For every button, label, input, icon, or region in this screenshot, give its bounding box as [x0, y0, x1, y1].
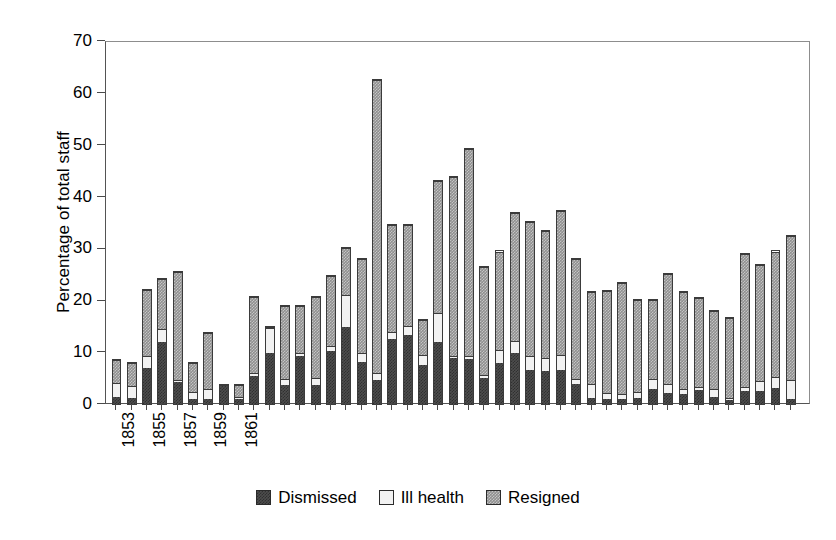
bar — [525, 221, 535, 405]
y-axis-tick — [97, 40, 105, 41]
bar-segment-resigned — [787, 236, 795, 381]
bar — [341, 247, 351, 405]
bar-segment-ill_health — [342, 295, 350, 327]
bar-segment-ill_health — [204, 389, 212, 399]
y-axis-tick — [97, 248, 105, 249]
bar-segment-ill_health — [526, 356, 534, 370]
bar — [142, 289, 152, 405]
bar-segment-resigned — [603, 291, 611, 393]
bar-segment-ill_health — [434, 313, 442, 343]
bar — [755, 264, 765, 405]
bar-segment-resigned — [204, 333, 212, 389]
bar — [403, 224, 413, 405]
bar-segment-dismissed — [480, 378, 488, 404]
bar — [372, 79, 382, 405]
bar-segment-resigned — [588, 292, 596, 384]
legend-swatch-icon — [379, 490, 394, 505]
bar — [188, 362, 198, 405]
bar-segment-dismissed — [542, 371, 550, 404]
bar-segment-resigned — [557, 211, 565, 355]
bar-segment-ill_health — [128, 386, 136, 397]
bar-segment-ill_health — [649, 379, 657, 389]
bar-segment-ill_health — [312, 378, 320, 386]
bar-segment-dismissed — [296, 356, 304, 404]
plot-area — [105, 41, 810, 404]
bar — [786, 235, 796, 405]
bar — [357, 258, 367, 405]
bar-segment-dismissed — [772, 388, 780, 404]
bar — [295, 305, 305, 405]
bar-segment-dismissed — [113, 397, 121, 404]
bar-segment-dismissed — [450, 358, 458, 404]
bar-segment-ill_health — [388, 332, 396, 340]
bar-segment-resigned — [480, 267, 488, 375]
bar — [541, 230, 551, 405]
bar-segment-resigned — [572, 259, 580, 379]
bar-segment-resigned — [388, 225, 396, 332]
bar-segment-dismissed — [511, 353, 519, 404]
bar-segment-resigned — [772, 252, 780, 377]
bar-segment-resigned — [296, 306, 304, 353]
y-axis-tick — [97, 351, 105, 352]
bar-segment-resigned — [327, 276, 335, 346]
bar — [679, 291, 689, 405]
bar-segment-dismissed — [465, 359, 473, 404]
bar — [311, 296, 321, 405]
bar-segment-dismissed — [281, 385, 289, 404]
bar-segment-resigned — [542, 231, 550, 358]
bar — [617, 282, 627, 405]
bar-segment-resigned — [143, 290, 151, 356]
bar-segment-resigned — [496, 252, 504, 351]
bar-segment-resigned — [189, 363, 197, 392]
bar-segment-ill_health — [772, 377, 780, 388]
bar-segment-dismissed — [342, 327, 350, 404]
bar-segment-resigned — [756, 265, 764, 381]
bar-segment-resigned — [404, 225, 412, 326]
bar — [602, 290, 612, 405]
bar — [495, 250, 505, 405]
bar-segment-ill_health — [158, 329, 166, 342]
y-axis-tick — [97, 144, 105, 145]
bar — [449, 176, 459, 405]
y-axis-tick-label: 30 — [34, 239, 92, 256]
bar-segment-dismissed — [327, 351, 335, 404]
bar — [725, 317, 735, 405]
bar — [633, 299, 643, 405]
bar-segment-resigned — [680, 292, 688, 389]
bar-segment-ill_health — [419, 355, 427, 365]
bar-segment-dismissed — [664, 393, 672, 404]
bar-segment-resigned — [726, 318, 734, 398]
bar-segment-resigned — [526, 222, 534, 355]
bar-segment-dismissed — [404, 335, 412, 404]
y-axis-tick-label: 60 — [34, 84, 92, 101]
x-axis-labels: 18531855185718591861 — [105, 404, 810, 534]
legend-swatch-icon — [486, 490, 501, 505]
bar-segment-dismissed — [649, 389, 657, 404]
bar-segment-resigned — [158, 279, 166, 329]
bar-segment-resigned — [373, 80, 381, 373]
bar-segment-ill_health — [588, 384, 596, 398]
bar-segment-dismissed — [710, 397, 718, 404]
bar-segment-ill_health — [189, 392, 197, 399]
bar-segment-ill_health — [143, 356, 151, 369]
bar-segment-dismissed — [358, 362, 366, 404]
bar-segment-resigned — [465, 149, 473, 356]
bar — [771, 250, 781, 405]
y-axis-tick-label: 40 — [34, 188, 92, 205]
bar-segment-resigned — [113, 360, 121, 383]
bar — [157, 278, 167, 405]
bar-segment-resigned — [128, 363, 136, 386]
bar-segment-dismissed — [174, 382, 182, 404]
legend-swatch-icon — [256, 490, 271, 505]
legend-item: Dismissed — [256, 489, 356, 506]
y-axis-tick — [97, 403, 105, 404]
bar-segment-resigned — [710, 311, 718, 389]
bar-segment-resigned — [695, 298, 703, 388]
bar — [556, 210, 566, 405]
bar-segment-dismissed — [741, 391, 749, 404]
bar-segment-ill_health — [557, 355, 565, 370]
bar-segment-resigned — [174, 272, 182, 380]
bar-segment-dismissed — [220, 386, 228, 404]
bar-segment-resigned — [634, 300, 642, 392]
legend-label: Resigned — [508, 489, 580, 506]
